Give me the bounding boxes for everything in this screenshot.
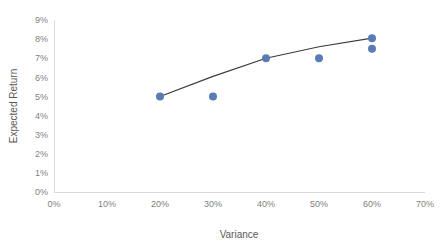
series-line-group <box>160 38 372 96</box>
data-point-marker[interactable] <box>156 92 164 100</box>
data-point-marker[interactable] <box>209 92 217 100</box>
y-axis-title: Expected Return <box>8 69 19 144</box>
x-tick-label: 70% <box>416 199 434 209</box>
x-axis-tick-labels: 0%10%20%30%40%50%60%70% <box>47 199 434 209</box>
x-tick-label: 0% <box>47 199 60 209</box>
x-tick-label: 30% <box>204 199 222 209</box>
y-tick-label: 7% <box>35 53 48 63</box>
y-tick-label: 0% <box>35 187 48 197</box>
data-point-marker[interactable] <box>262 54 270 62</box>
x-tick-label: 10% <box>98 199 116 209</box>
y-tick-label: 2% <box>35 149 48 159</box>
x-tick-label: 50% <box>310 199 328 209</box>
y-tick-label: 5% <box>35 92 48 102</box>
plot-area: 0%10%20%30%40%50%60%70% 0%1%2%3%4%5%6%7%… <box>35 15 434 209</box>
y-tick-label: 3% <box>35 130 48 140</box>
chart-container: 0%10%20%30%40%50%60%70% 0%1%2%3%4%5%6%7%… <box>0 0 443 249</box>
x-tick-label: 40% <box>257 199 275 209</box>
y-tick-label: 6% <box>35 73 48 83</box>
series-marker-group <box>156 34 376 100</box>
y-tick-label: 1% <box>35 168 48 178</box>
frontier-line <box>160 38 372 96</box>
y-axis-tick-labels: 0%1%2%3%4%5%6%7%8%9% <box>35 15 48 197</box>
x-axis-title: Variance <box>220 229 259 240</box>
data-point-marker[interactable] <box>315 54 323 62</box>
x-tick-label: 20% <box>151 199 169 209</box>
y-tick-label: 4% <box>35 111 48 121</box>
y-tick-label: 8% <box>35 34 48 44</box>
x-tick-label: 60% <box>363 199 381 209</box>
scatter-chart: 0%10%20%30%40%50%60%70% 0%1%2%3%4%5%6%7%… <box>0 0 443 249</box>
data-point-marker[interactable] <box>368 45 376 53</box>
y-tick-label: 9% <box>35 15 48 25</box>
data-point-marker[interactable] <box>368 34 376 42</box>
